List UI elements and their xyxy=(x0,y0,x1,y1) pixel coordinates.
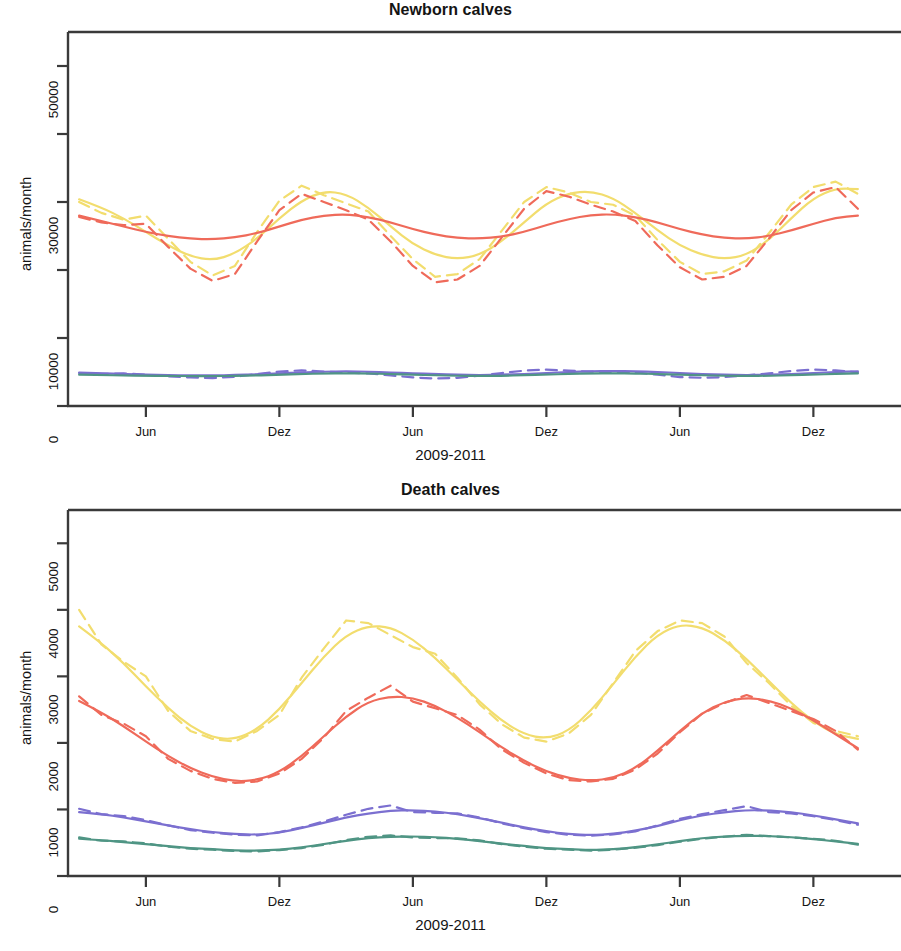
chart-panel-death: Death calves 010002000300040005000JunDez… xyxy=(0,478,901,951)
series-red-dashed xyxy=(79,686,858,783)
y-tick-label: 10000 xyxy=(46,337,61,407)
series-red-solid xyxy=(79,215,858,240)
x-tick-label: Dez xyxy=(249,424,309,439)
plot-area-death xyxy=(0,478,901,951)
series-red-solid xyxy=(79,697,858,781)
x-tick-label: Jun xyxy=(383,894,443,909)
x-tick-label: Dez xyxy=(516,424,576,439)
series-green-dashed xyxy=(79,835,858,852)
x-tick-label: Dez xyxy=(249,894,309,909)
y-tick-label: 4000 xyxy=(46,608,61,678)
x-tick-label: Jun xyxy=(650,894,710,909)
y-tick-label: 1000 xyxy=(46,808,61,878)
x-tick-label: Jun xyxy=(383,424,443,439)
y-tick-label: 0 xyxy=(46,875,61,945)
x-tick-label: Jun xyxy=(650,424,710,439)
series-red-dashed xyxy=(79,187,858,282)
series-yellow-dashed xyxy=(79,182,858,277)
x-tick-label: Jun xyxy=(116,424,176,439)
series-yellow-solid xyxy=(79,189,858,259)
figure-container: Newborn calves 0100003000050000JunDezJun… xyxy=(0,0,901,951)
y-tick-label: 50000 xyxy=(46,65,61,135)
y-tick-label: 30000 xyxy=(46,201,61,271)
x-tick-label: Dez xyxy=(516,894,576,909)
x-axis-title: 2009-2011 xyxy=(0,446,901,463)
chart-panel-newborn: Newborn calves 0100003000050000JunDezJun… xyxy=(0,0,901,478)
x-axis-title: 2009-2011 xyxy=(0,916,901,933)
y-tick-label: 2000 xyxy=(46,741,61,811)
x-tick-label: Dez xyxy=(783,424,843,439)
x-tick-label: Jun xyxy=(116,894,176,909)
plot-area-newborn xyxy=(0,0,901,478)
y-tick-label: 0 xyxy=(46,405,61,475)
y-axis-title: animals/month xyxy=(18,177,34,271)
y-tick-label: 5000 xyxy=(46,542,61,612)
y-tick-label: 3000 xyxy=(46,675,61,745)
y-axis-title: animals/month xyxy=(18,651,34,745)
x-tick-label: Dez xyxy=(783,894,843,909)
